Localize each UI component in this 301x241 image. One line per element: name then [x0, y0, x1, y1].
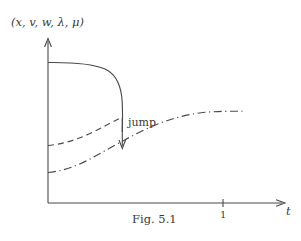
figure-container: (x, v, w, λ, μ) t 1 jump Fig. 5.1 [0, 0, 301, 241]
figure-caption: Fig. 5.1 [132, 212, 177, 226]
x-axis-tick-label-1: 1 [220, 209, 226, 220]
curve-upper-branch-solid [48, 62, 123, 132]
x-axis-label: t [286, 204, 291, 218]
jump-arrow [119, 118, 126, 149]
curve-middle-branch-dashed [48, 117, 122, 145]
y-axis-label: (x, v, w, λ, μ) [11, 15, 84, 29]
y-axis [45, 39, 52, 204]
jump-annotation-label: jump [126, 116, 156, 129]
x-axis [48, 200, 285, 207]
figure-plot: (x, v, w, λ, μ) t 1 jump Fig. 5.1 [0, 0, 301, 241]
